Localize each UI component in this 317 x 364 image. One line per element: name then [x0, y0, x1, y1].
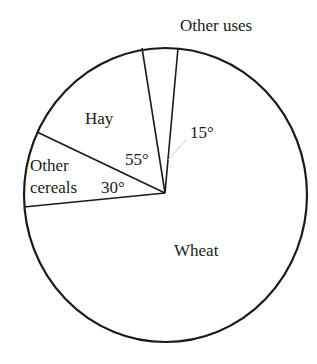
label-other-cereals-1: Other	[30, 157, 69, 174]
label-other-cereals-2: cereals	[30, 179, 77, 196]
label-wheat: Wheat	[174, 242, 218, 259]
label-angle-15: 15°	[190, 124, 214, 141]
label-angle-30: 30°	[101, 179, 125, 196]
label-other-uses: Other uses	[180, 17, 252, 34]
label-angle-55: 55°	[125, 151, 149, 168]
label-hay: Hay	[85, 110, 113, 127]
